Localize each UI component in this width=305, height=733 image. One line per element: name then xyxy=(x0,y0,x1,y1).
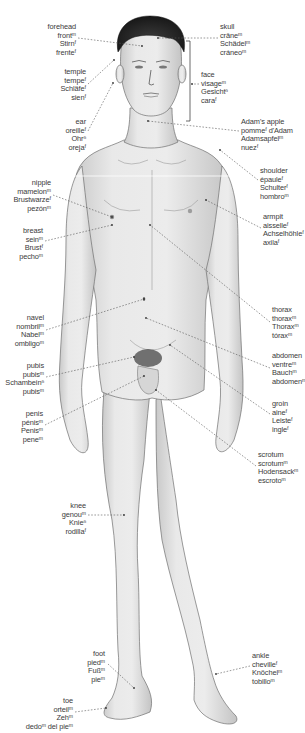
leader-dot-forehead xyxy=(141,45,143,47)
label-skull: skullcrâneᵐSchädelᵐcráneoᵐ xyxy=(220,23,250,57)
label-translation: peneᵐ xyxy=(21,436,43,445)
label-temple: templetempeᶠSchläfeᶠsienᶠ xyxy=(60,68,86,102)
label-translation: nuezᶠ xyxy=(241,144,293,153)
label-translation: tobilloᵐ xyxy=(252,678,282,687)
left-leg xyxy=(102,390,151,719)
label-ear: earoreilleᶠOhrⁿorejaᶠ xyxy=(65,118,86,152)
label-translation: ingleᶠ xyxy=(272,426,293,435)
label-scrotum: scrotumscrotumᵐHodensackᵐescrotoᵐ xyxy=(258,451,298,485)
leader-line-toe xyxy=(75,708,106,712)
leader-dot-scrotum xyxy=(155,389,157,391)
label-foot: footpiedᵐFußᵐpieᵐ xyxy=(87,650,105,684)
leader-dot-abdomen xyxy=(145,317,147,319)
label-thorax: thoraxthoraxᵐThoraxᵐtóraxᵐ xyxy=(272,306,299,340)
label-shoulder: shoulderépauleᶠSchulterᶠhombroᵐ xyxy=(260,167,289,201)
right-nipple xyxy=(188,209,192,213)
label-groin: groinaineᶠLeisteᶠingleᶠ xyxy=(272,400,293,434)
pubic-hair xyxy=(134,349,162,367)
leader-dot-face xyxy=(191,83,193,85)
label-translation: sienᶠ xyxy=(60,94,86,103)
label-translation: caraᶠ xyxy=(201,97,228,106)
label-toe: toeorteilᵐZehᵐdedoᵐ del pieᵐ xyxy=(26,697,73,731)
label-nipple: nipplemamelonᵐBrustwarzeᶠpezónᵐ xyxy=(13,179,51,213)
label-face: facevisageᵐGesichtⁿcaraᶠ xyxy=(201,71,228,105)
human-body-illustration xyxy=(0,0,305,733)
label-penis: penispénisᵐPenisᵐpeneᵐ xyxy=(21,410,43,444)
label-translation: pieᵐ xyxy=(87,676,105,685)
label-ankle: anklechevilleᶠKnöchelᵐtobilloᵐ xyxy=(252,652,282,686)
label-pubis: pubispubisᵐSchambeinⁿpubisᵐ xyxy=(5,362,44,396)
leader-dot-toe xyxy=(105,707,107,709)
leader-dot-nipple xyxy=(111,216,113,218)
leader-dot-ear xyxy=(112,82,114,84)
label-translation: pezónᵐ xyxy=(13,205,51,214)
label-translation: rodillaᶠ xyxy=(62,528,86,537)
label-translation: pubisᵐ xyxy=(5,388,44,397)
label-translation: ombligoᵐ xyxy=(15,340,44,349)
label-navel: navelnombrilᵐNabelᵐombligoᵐ xyxy=(15,314,44,348)
leader-line-ear xyxy=(88,83,113,131)
label-translation: abdomenᵐ xyxy=(272,378,305,387)
label-translation: pechoᵐ xyxy=(19,253,43,262)
label-knee: kneegenouᵐKnieⁿrodillaᶠ xyxy=(62,502,86,536)
label-translation: axilaᶠ xyxy=(263,239,304,248)
leader-dot-foot xyxy=(133,687,135,689)
label-translation: orejaᶠ xyxy=(65,144,86,153)
label-adams-apple: Adam's applepommeᶠ d'AdamAdamsapfelᵐnuez… xyxy=(241,118,293,152)
right-ear xyxy=(178,65,186,83)
leader-dot-skull xyxy=(157,37,159,39)
leader-line-ankle xyxy=(216,666,250,674)
label-translation: tóraxᵐ xyxy=(272,332,299,341)
leader-dot-groin xyxy=(169,344,171,346)
label-forehead: foreheadfrontᵐStirnᶠfrenteᶠ xyxy=(48,23,76,57)
label-translation: dedoᵐ del pieᵐ xyxy=(26,723,73,732)
leader-dot-penis xyxy=(143,375,145,377)
label-armpit: armpitaisselleᶠAchselhöhleᶠaxilaᶠ xyxy=(263,213,304,247)
left-ear xyxy=(116,65,124,83)
face-bracket xyxy=(186,41,190,121)
leader-dot-pubis xyxy=(133,356,135,358)
leader-dot-temple xyxy=(113,59,115,61)
leader-dot-adams-apple xyxy=(147,120,149,122)
leader-dot-thorax xyxy=(149,224,151,226)
leader-line-temple xyxy=(88,60,114,84)
leader-dot-shoulder xyxy=(219,149,221,151)
label-abdomen: abdomenventreᵐBauchᵐabdomenᵐ xyxy=(272,352,305,386)
label-translation: cráneoᵐ xyxy=(220,49,250,58)
label-breast: breastseinᵐBrustᶠpechoᵐ xyxy=(19,227,43,261)
leader-dot-armpit xyxy=(205,199,207,201)
leader-dot-breast xyxy=(111,224,113,226)
label-translation: frenteᶠ xyxy=(48,49,76,58)
leader-dot-navel xyxy=(143,298,145,300)
label-translation: hombroᵐ xyxy=(260,193,289,202)
label-translation: escrotoᵐ xyxy=(258,477,298,486)
leader-dot-knee xyxy=(123,514,125,516)
leader-dot-ankle xyxy=(215,673,217,675)
